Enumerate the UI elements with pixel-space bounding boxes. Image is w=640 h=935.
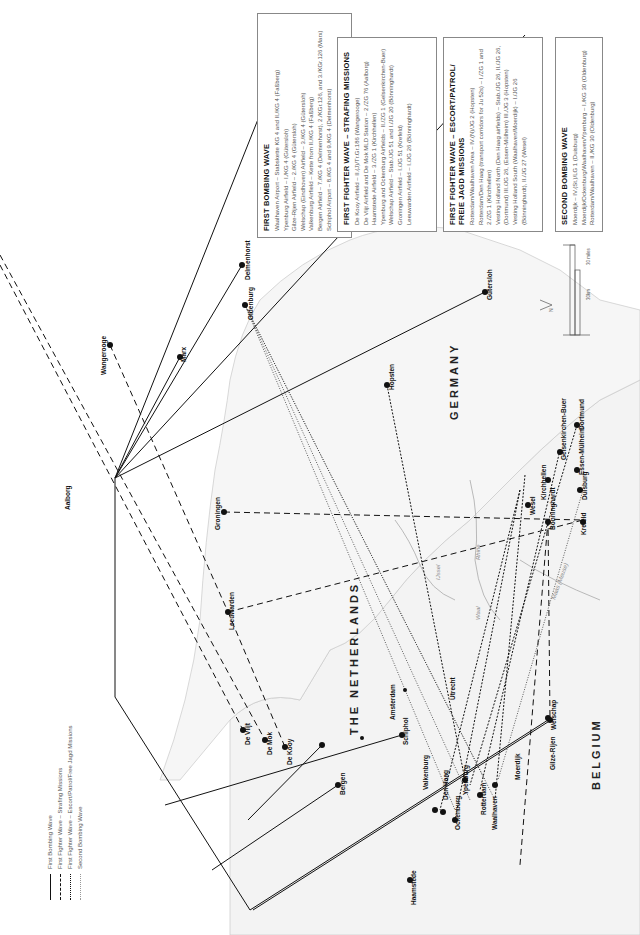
svg-text:Aalborg: Aalborg <box>64 485 72 510</box>
scale-miles-label: 30 miles <box>586 247 591 265</box>
scale-km-label: 30km <box>586 289 591 300</box>
svg-text:Den Haag: Den Haag <box>442 770 450 800</box>
svg-text:IJssel: IJssel <box>435 564 441 580</box>
svg-text:Leeuwarden: Leeuwarden <box>228 592 235 630</box>
svg-text:Utrecht: Utrecht <box>449 676 456 700</box>
svg-text:Delmenhorst: Delmenhorst <box>244 239 251 280</box>
svg-text:De Vlijt: De Vlijt <box>244 722 252 745</box>
svg-text:BELGIUM: BELGIUM <box>590 718 602 790</box>
svg-text:Essen-Mülheim: Essen-Mülheim <box>578 427 585 475</box>
svg-text:Ockenburg: Ockenburg <box>454 796 462 830</box>
svg-text:Wangerooge: Wangerooge <box>100 335 108 375</box>
svg-text:GERMANY: GERMANY <box>448 343 460 420</box>
svg-text:Haamstede: Haamstede <box>410 870 417 905</box>
svg-text:Gilze-Rijen: Gilze-Rijen <box>549 736 557 770</box>
svg-text:Moerdijk: Moerdijk <box>514 753 522 780</box>
svg-text:Welschap: Welschap <box>550 700 558 730</box>
svg-text:Oldenburg: Oldenburg <box>247 287 255 320</box>
svg-text:Duisburg: Duisburg <box>581 471 589 500</box>
svg-text:Groningen: Groningen <box>214 497 222 530</box>
map-legend: First Bombing Wave First Fighter Wave – … <box>45 726 85 901</box>
svg-text:Hopsten: Hopsten <box>388 364 396 390</box>
svg-text:THE NETHERLANDS: THE NETHERLANDS <box>348 582 360 735</box>
svg-text:Kirchhellen: Kirchhellen <box>540 465 547 500</box>
svg-text:Waalhaven: Waalhaven <box>491 796 498 830</box>
land-outline <box>160 227 640 935</box>
svg-text:De Mok: De Mok <box>266 732 273 756</box>
svg-text:Schiphol: Schiphol <box>402 717 410 745</box>
north-label: N <box>548 308 554 312</box>
svg-text:Amsterdam: Amsterdam <box>389 684 396 720</box>
second-bombing-wave-box: SECOND BOMBING WAVE Moerdijk – IV.(St.)/… <box>555 37 603 232</box>
svg-text:Ypenburg: Ypenburg <box>462 765 470 795</box>
svg-text:Gelsenkirchen-Buer: Gelsenkirchen-Buer <box>560 398 567 460</box>
svg-text:Dortmund: Dortmund <box>578 399 585 430</box>
svg-text:Bönninghardt: Bönninghardt <box>549 487 557 530</box>
svg-text:Bergen: Bergen <box>339 773 347 795</box>
strafing-missions-box: FIRST FIGHTER WAVE – STRAFING MISSIONS D… <box>337 37 437 232</box>
svg-text:Rhine: Rhine <box>475 544 481 560</box>
svg-text:Wesel: Wesel <box>529 496 536 515</box>
svg-text:De Kooy: De Kooy <box>286 738 294 765</box>
svg-text:Krefeld: Krefeld <box>580 513 587 535</box>
svg-text:Marx: Marx <box>180 346 187 362</box>
svg-text:Valkenburg: Valkenburg <box>422 755 430 790</box>
svg-text:Waal: Waal <box>475 606 481 620</box>
escort-patrol-box: FIRST FIGHTER WAVE – ESCORT/PATROL/ FREI… <box>443 37 543 232</box>
svg-text:Rotterdam: Rotterdam <box>480 782 487 815</box>
svg-text:Gütersloh: Gütersloh <box>486 269 493 300</box>
